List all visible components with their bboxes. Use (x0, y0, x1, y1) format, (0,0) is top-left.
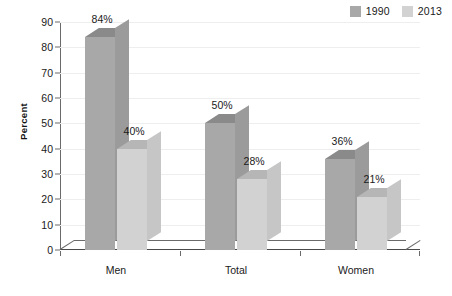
bar-chart: 1990 2013 Percent 0102030405060708090 84… (0, 0, 452, 296)
y-tick-mark-10 (55, 224, 60, 225)
bar-value-label: 50% (212, 99, 233, 111)
bar-total-2013[interactable]: 28% (237, 179, 267, 250)
legend-label-2013: 2013 (418, 5, 442, 17)
x-tick-mark-2 (300, 251, 301, 256)
x-tick-mark-end (419, 251, 420, 256)
x-axis-label-total: Total (225, 264, 247, 276)
legend-swatch-1990 (350, 6, 361, 17)
bar-value-label: 28% (244, 155, 265, 167)
y-tick-mark-90 (55, 22, 60, 23)
x-axis-label-women: Women (338, 264, 374, 276)
bar-front-face (117, 149, 147, 250)
bar-value-label: 84% (92, 13, 113, 25)
bar-side-face (147, 131, 161, 241)
bar-front-face (85, 37, 115, 250)
legend-swatch-2013 (402, 6, 413, 17)
bar-value-label: 36% (332, 135, 353, 147)
bar-total-1990[interactable]: 50% (205, 123, 235, 250)
x-tick-mark-0 (60, 251, 61, 256)
bar-women-2013[interactable]: 21% (357, 197, 387, 250)
y-tick-mark-50 (55, 123, 60, 124)
bar-front-face (325, 159, 355, 250)
bar-side-face (267, 161, 281, 241)
bar-men-1990[interactable]: 84% (85, 37, 115, 250)
bar-side-face (387, 179, 401, 241)
plot-area: 0102030405060708090 84%40%50%28%36%21% M… (60, 22, 420, 250)
legend-item-2013[interactable]: 2013 (402, 5, 442, 17)
bar-front-face (237, 179, 267, 250)
y-tick-mark-80 (55, 47, 60, 48)
y-axis-title: Percent (18, 82, 29, 162)
legend-item-1990[interactable]: 1990 (350, 5, 390, 17)
y-tick-mark-60 (55, 98, 60, 99)
bar-front-face (205, 123, 235, 250)
y-tick-mark-70 (55, 72, 60, 73)
bar-men-2013[interactable]: 40% (117, 149, 147, 250)
bar-women-1990[interactable]: 36% (325, 159, 355, 250)
y-tick-mark-40 (55, 148, 60, 149)
legend-label-1990: 1990 (366, 5, 390, 17)
gridline-90 (60, 22, 420, 23)
x-tick-mark-1 (180, 251, 181, 256)
x-axis-label-men: Men (106, 264, 126, 276)
bar-front-face (357, 197, 387, 250)
y-tick-mark-20 (55, 199, 60, 200)
bar-value-label: 21% (364, 173, 385, 185)
chart-legend: 1990 2013 (350, 5, 442, 17)
bar-value-label: 40% (124, 125, 145, 137)
y-axis-line (60, 22, 61, 250)
y-tick-mark-30 (55, 174, 60, 175)
